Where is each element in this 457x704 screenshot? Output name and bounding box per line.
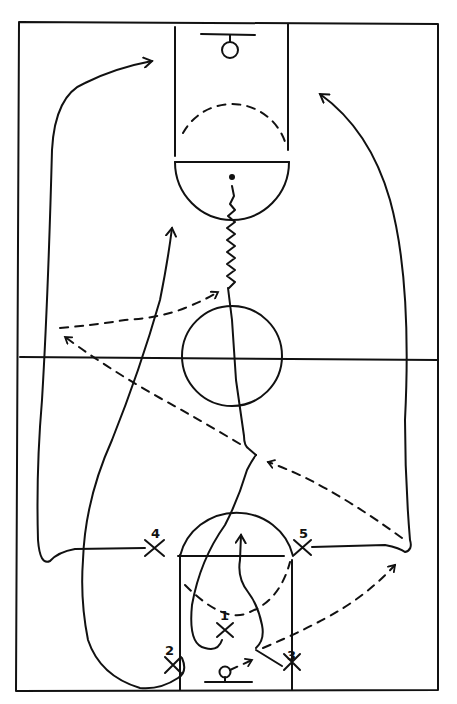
cuts (38, 61, 411, 688)
dribble-end-dot (229, 174, 235, 180)
top-rim (222, 42, 238, 58)
player-4-number: 4 (151, 526, 160, 541)
player-2: 2 (165, 643, 181, 673)
player-5-number: 5 (299, 526, 308, 541)
player-4-marker (145, 540, 164, 556)
pass-to-middle (268, 462, 402, 538)
passes (60, 292, 402, 670)
screen-line-player-3 (256, 650, 282, 666)
top-free-throw-circle-dashed (183, 104, 286, 145)
dribble-zigzag (227, 186, 235, 288)
player-5-marker (294, 540, 311, 555)
cut-path-player-5 (312, 94, 411, 552)
player-2-number: 2 (165, 643, 174, 658)
player-5: 5 (294, 526, 311, 555)
bottom-key (178, 513, 293, 690)
pass-inbound (230, 660, 252, 670)
pass-to-right-wing (263, 565, 395, 648)
player-1-marker (217, 623, 233, 637)
bottom-rim (220, 667, 231, 678)
basketball-play-diagram: 1 2 3 4 5 (0, 0, 457, 704)
cut-path-post (239, 535, 262, 648)
half-court-line (20, 357, 438, 360)
player-1-number: 1 (220, 608, 229, 623)
top-backboard (201, 34, 255, 35)
player-3-number: 3 (287, 648, 296, 663)
cut-path-player-2 (82, 228, 184, 688)
pass-to-left-wing (65, 337, 240, 444)
bottom-free-throw-circle-solid (180, 513, 293, 556)
players: 1 2 3 4 5 (145, 526, 311, 673)
player-2-marker (165, 657, 181, 673)
player-4: 4 (145, 526, 164, 556)
dribble-connector (228, 288, 256, 455)
court (16, 22, 438, 691)
player-1: 1 (217, 608, 233, 637)
